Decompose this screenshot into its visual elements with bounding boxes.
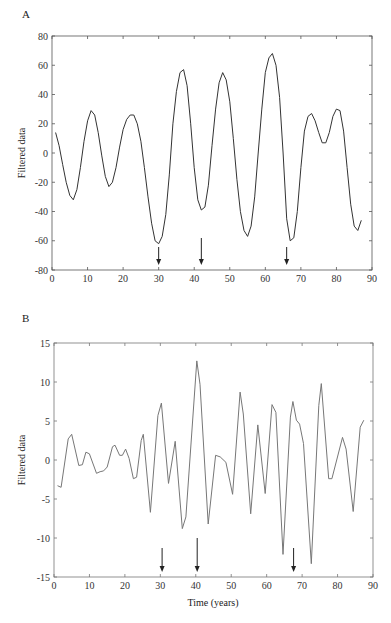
panel-a-label: A (22, 8, 30, 20)
x-tick-label: 90 (367, 273, 377, 284)
panel-b: B Filtered data Time (years) 01020304050… (16, 312, 378, 609)
y-tick-label: 15 (40, 338, 50, 349)
x-tick-label: 70 (297, 580, 307, 591)
x-tick-label: 20 (120, 580, 130, 591)
x-tick-label: 40 (191, 580, 201, 591)
y-tick-label: 60 (38, 60, 48, 71)
panel-b-label: B (22, 312, 29, 324)
x-tick-label: 50 (226, 580, 236, 591)
x-tick-label: 60 (260, 273, 270, 284)
x-tick-label: 0 (50, 273, 55, 284)
x-tick-label: 0 (52, 580, 57, 591)
y-tick-label: -60 (35, 235, 48, 246)
panel-a-y-axis-title: Filtered data (16, 127, 27, 178)
x-tick-label: 80 (333, 580, 343, 591)
panel-a: A Filtered data 0102030405060708090-80-6… (16, 8, 377, 284)
y-tick-label: 20 (38, 118, 48, 129)
x-tick-label: 10 (84, 580, 94, 591)
y-tick-label: 0 (43, 148, 48, 159)
panel-b-plot-frame (54, 343, 373, 577)
arrow-down-icon (195, 538, 200, 572)
x-tick-label: 60 (262, 580, 272, 591)
x-tick-label: 50 (225, 273, 235, 284)
x-tick-label: 90 (368, 580, 378, 591)
y-tick-label: 10 (40, 377, 50, 388)
arrow-down-icon (284, 247, 289, 265)
figure: A Filtered data 0102030405060708090-80-6… (0, 0, 391, 623)
series-line (58, 361, 364, 564)
y-tick-label: 5 (45, 416, 50, 427)
arrow-down-icon (199, 238, 204, 265)
arrow-down-icon (291, 548, 296, 572)
y-tick-label: 0 (45, 455, 50, 466)
x-tick-label: 10 (83, 273, 93, 284)
x-tick-label: 20 (118, 273, 128, 284)
x-tick-label: 30 (154, 273, 164, 284)
x-tick-label: 30 (155, 580, 165, 591)
arrow-down-icon (160, 548, 165, 572)
x-tick-label: 40 (189, 273, 199, 284)
x-tick-label: 70 (296, 273, 306, 284)
series-line (56, 54, 362, 244)
panel-b-y-axis-title: Filtered data (16, 434, 27, 485)
panel-a-plot-frame (52, 36, 372, 270)
y-tick-label: -80 (35, 265, 48, 276)
y-tick-label: -40 (35, 206, 48, 217)
y-tick-label: -10 (37, 533, 50, 544)
panel-b-x-axis-title: Time (years) (187, 597, 238, 609)
x-tick-label: 80 (331, 273, 341, 284)
y-tick-label: -20 (35, 177, 48, 188)
y-tick-label: -15 (37, 572, 50, 583)
y-tick-label: 80 (38, 31, 48, 42)
y-tick-label: -5 (42, 494, 50, 505)
arrow-down-icon (156, 247, 161, 265)
y-tick-label: 40 (38, 89, 48, 100)
